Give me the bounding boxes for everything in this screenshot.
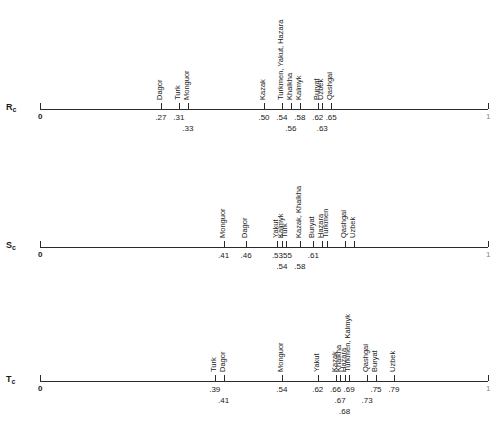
marker-name: Turkmen, Kalmyk — [343, 314, 352, 372]
marker-name: Kazak — [258, 79, 267, 100]
marker-name: Monguor — [182, 70, 191, 100]
marker-value: .41 — [218, 251, 229, 260]
marker-tick — [300, 103, 301, 109]
marker-tick — [336, 375, 337, 381]
marker-tick — [291, 103, 292, 109]
marker-tick — [188, 103, 189, 109]
marker-value: .58 — [294, 262, 305, 271]
marker-value: .62 — [312, 113, 323, 122]
marker-value: .33 — [182, 124, 193, 133]
marker-tick — [215, 375, 216, 381]
axis-start-tick — [40, 375, 41, 381]
marker-tick — [224, 375, 225, 381]
marker-value: .73 — [361, 396, 372, 405]
marker-name: Yakut — [312, 353, 321, 372]
marker-tick — [282, 241, 283, 247]
marker-value: .56 — [285, 124, 296, 133]
marker-tick — [246, 241, 247, 247]
marker-tick — [318, 103, 319, 109]
marker-name: Kazak, Khalkha — [294, 186, 303, 238]
marker-tick — [354, 241, 355, 247]
marker-name: Buryat — [307, 216, 316, 238]
axis-line — [40, 247, 488, 248]
axis-line — [40, 109, 488, 110]
axis-max-label: 1 — [486, 384, 490, 393]
axis-min-label: 0 — [38, 384, 42, 393]
marker-tick — [340, 375, 341, 381]
marker-name: Kalmyk — [294, 75, 303, 100]
marker-value: .55 — [281, 251, 292, 260]
marker-name: Khalkha — [285, 73, 294, 100]
marker-name: Dagor — [218, 352, 227, 372]
marker-value: .75 — [370, 385, 381, 394]
axis-line — [40, 381, 488, 382]
marker-name: Turkmen, Yakut, Hazara — [276, 20, 285, 100]
axis-min-label: 0 — [38, 250, 42, 259]
marker-tick — [367, 375, 368, 381]
marker-name: Turk — [209, 357, 218, 372]
marker-tick — [376, 375, 377, 381]
marker-value: .63 — [317, 124, 328, 133]
marker-tick — [286, 241, 287, 247]
marker-name: Uzbek — [388, 351, 397, 372]
marker-value: .54 — [276, 385, 287, 394]
marker-name: Buryat — [370, 350, 379, 372]
marker-tick — [282, 103, 283, 109]
marker-value: .62 — [312, 385, 323, 394]
marker-tick — [313, 241, 314, 247]
marker-tick — [224, 241, 225, 247]
axis-start-tick — [40, 103, 41, 109]
scale-label-subscript: c — [13, 106, 17, 113]
marker-name: Turk — [280, 223, 289, 238]
marker-name: Qashgai — [361, 344, 370, 372]
marker-value: .79 — [388, 385, 399, 394]
scale-label: Sc — [6, 240, 16, 251]
marker-name: Dagor — [240, 218, 249, 238]
marker-name: Monguor — [276, 342, 285, 372]
marker-name: Turk — [173, 85, 182, 100]
marker-tick — [331, 103, 332, 109]
marker-tick — [345, 375, 346, 381]
marker-tick — [349, 375, 350, 381]
marker-name: Monguor — [218, 208, 227, 238]
scale-label: Rc — [6, 102, 16, 113]
scale-label-subscript: c — [12, 244, 16, 251]
marker-name: Qashgai — [339, 210, 348, 238]
marker-tick — [327, 241, 328, 247]
marker-name: Turkmen — [321, 209, 330, 238]
marker-value: .54 — [276, 113, 287, 122]
axis-max-label: 1 — [486, 250, 490, 259]
marker-value: .66 — [330, 385, 341, 394]
marker-value: .65 — [326, 113, 337, 122]
marker-tick — [179, 103, 180, 109]
marker-value: .27 — [155, 113, 166, 122]
marker-value: .68 — [339, 407, 350, 416]
axis-max-label: 1 — [486, 112, 490, 121]
marker-value: .31 — [173, 113, 184, 122]
marker-value: .69 — [344, 385, 355, 394]
marker-value: .41 — [218, 396, 229, 405]
marker-tick — [322, 241, 323, 247]
marker-name: Dagor — [155, 80, 164, 100]
marker-name: Uzbek — [316, 79, 325, 100]
axis-min-label: 0 — [38, 112, 42, 121]
marker-value: .67 — [335, 396, 346, 405]
scale-label: Tc — [6, 374, 15, 385]
marker-tick — [300, 241, 301, 247]
marker-value: .50 — [258, 113, 269, 122]
marker-tick — [345, 241, 346, 247]
marker-name: Uzbek — [348, 217, 357, 238]
marker-tick — [161, 103, 162, 109]
axis-start-tick — [40, 241, 41, 247]
axis-end-tick — [488, 375, 489, 381]
marker-value: .54 — [276, 262, 287, 271]
marker-name: Qashgai — [325, 72, 334, 100]
marker-tick — [264, 103, 265, 109]
scale-label-subscript: c — [12, 378, 16, 385]
marker-value: .39 — [209, 385, 220, 394]
marker-value: .46 — [241, 251, 252, 260]
marker-tick — [394, 375, 395, 381]
marker-tick — [322, 103, 323, 109]
marker-value: .58 — [294, 113, 305, 122]
axis-end-tick — [488, 241, 489, 247]
